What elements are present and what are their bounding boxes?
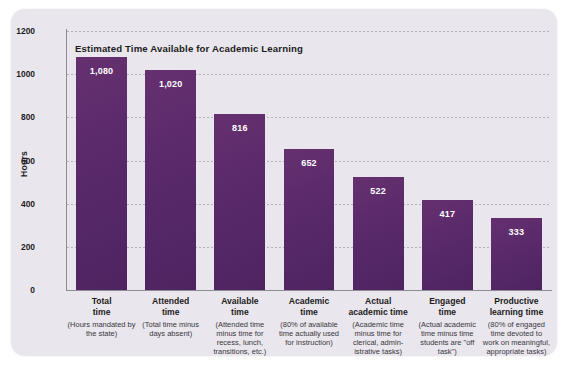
- category-labels: Totaltime(Hours mandated by the state)At…: [67, 294, 551, 369]
- category-description: (Total time minus days absent): [136, 320, 205, 338]
- category-name: Availabletime: [205, 294, 274, 317]
- bar: 522: [353, 177, 404, 290]
- category-description: (Actual academic time minus time student…: [413, 320, 482, 356]
- bar: 417: [422, 200, 473, 290]
- category-name: Engagedtime: [413, 294, 482, 317]
- y-axis-tick-label: 1200: [1, 26, 35, 36]
- y-axis-tick-label: 800: [1, 112, 35, 122]
- y-axis-tick-label: 0: [1, 285, 35, 295]
- category-label: Actualacademic time(Academic time minus …: [344, 294, 413, 356]
- category-name: Academictime: [274, 294, 343, 317]
- bar: 1,080: [76, 57, 127, 290]
- category-label: Academictime(80% of available time actua…: [274, 294, 343, 347]
- category-label: Totaltime(Hours mandated by the state): [67, 294, 136, 338]
- gridline: [67, 31, 551, 32]
- chart-page: Estimated Time Available for Academic Le…: [0, 0, 566, 369]
- y-axis-tick-label: 200: [1, 242, 35, 252]
- x-axis-line: [66, 290, 552, 291]
- y-axis-tick-label: 400: [1, 199, 35, 209]
- bar: 816: [214, 114, 265, 290]
- category-name: Attendedtime: [136, 294, 205, 317]
- category-label: Attendedtime(Total time minus days absen…: [136, 294, 205, 338]
- chart-card: Estimated Time Available for Academic Le…: [11, 9, 557, 356]
- bar-value-label: 1,080: [76, 66, 127, 76]
- category-label: Productivelearning time(80% of engaged t…: [482, 294, 551, 356]
- gridline: [67, 117, 551, 118]
- category-description: (Academic time minus time for clerical, …: [344, 320, 413, 356]
- bar-value-label: 1,020: [145, 79, 196, 89]
- category-description: (80% of engaged time devoted to work on …: [482, 320, 551, 356]
- category-description: (80% of available time actually used for…: [274, 320, 343, 347]
- plot-area: 0200400600800100012001,0801,020816652522…: [67, 31, 551, 290]
- category-name: Totaltime: [67, 294, 136, 317]
- gridline: [67, 74, 551, 75]
- y-axis-tick-label: 1000: [1, 69, 35, 79]
- category-description: (Attended time minus time for recess, lu…: [205, 320, 274, 356]
- category-name: Productivelearning time: [482, 294, 551, 317]
- bar-value-label: 652: [284, 158, 335, 168]
- bar-value-label: 333: [491, 227, 542, 237]
- bar-value-label: 522: [353, 186, 404, 196]
- category-description: (Hours mandated by the state): [67, 320, 136, 338]
- y-axis-tick-label: 600: [1, 156, 35, 166]
- bar-value-label: 816: [214, 123, 265, 133]
- category-label: Engagedtime(Actual academic time minus t…: [413, 294, 482, 356]
- category-name: Actualacademic time: [344, 294, 413, 317]
- bar: 1,020: [145, 70, 196, 290]
- bar-value-label: 417: [422, 209, 473, 219]
- category-label: Availabletime(Attended time minus time f…: [205, 294, 274, 356]
- bar: 652: [284, 149, 335, 290]
- bar: 333: [491, 218, 542, 290]
